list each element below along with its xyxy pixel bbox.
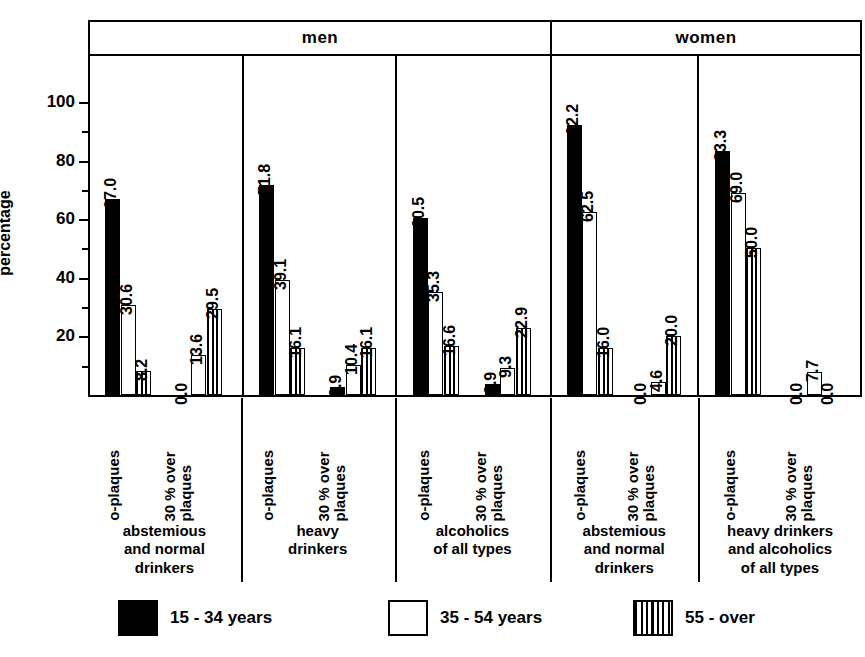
bar-value-label: 16.1 <box>288 327 304 358</box>
bar-value-label: 62.5 <box>580 191 596 222</box>
x-category-label-line: plaques <box>798 451 814 521</box>
bar-value-label: 60.5 <box>411 197 427 228</box>
panel-1: 71.839.116.12.910.416.1 <box>242 56 395 395</box>
legend-swatch-solid-black <box>118 600 158 636</box>
group-divider <box>395 398 397 582</box>
x-category-label: o-plaques <box>416 450 432 521</box>
group-caption-1: heavydrinkers <box>241 520 395 582</box>
bar-value-label: 83.3 <box>713 130 729 161</box>
bar-value-label: 16.6 <box>442 325 458 356</box>
bar-value-label: 22.9 <box>514 307 530 338</box>
y-tick-80 <box>79 161 88 163</box>
legend-label: 55 - over <box>685 608 755 628</box>
group-caption-text: abstemiousand normaldrinkers <box>583 522 666 577</box>
bar-value-label: 16.1 <box>359 327 375 358</box>
x-category-label: 30 % overplaques <box>472 451 504 521</box>
bar-value-label: 39.1 <box>273 259 289 290</box>
panel-2: 60.535.316.63.99.322.9 <box>395 56 550 395</box>
x-category-label-line: 30 % over <box>625 451 641 521</box>
x-category-label: 30 % overplaques <box>316 451 348 521</box>
x-category-label-line: 30 % over <box>316 451 332 521</box>
x-category-label-line: o-plaques <box>723 450 739 521</box>
group-caption-4: heavy drinkersand alcoholicsof all types <box>698 520 862 582</box>
x-category-label: o-plaques <box>106 450 122 521</box>
group-divider <box>241 398 243 582</box>
x-axis-labels: o-plaques30 % overplaqueso-plaques30 % o… <box>88 399 862 521</box>
y-tick-label-60: 60 <box>56 209 75 229</box>
group-caption-text: alcoholicsof all types <box>433 522 511 559</box>
x-category-label-line: 30 % over <box>472 451 488 521</box>
bar <box>567 125 582 395</box>
bar <box>582 212 597 395</box>
bar-value-label: 29.5 <box>205 287 221 318</box>
legend-label: 35 - 54 years <box>440 608 542 628</box>
bar-value-label: 92.2 <box>565 104 581 135</box>
header-cell-men: men <box>90 22 550 54</box>
bar-value-label: 69.0 <box>729 172 745 203</box>
x-category-label: o-plaques <box>572 450 588 521</box>
group-caption-line: drinkers <box>123 559 206 577</box>
panel-3: 92.262.516.00.04.620.0 <box>550 56 697 395</box>
x-category-label-line: plaques <box>332 451 348 521</box>
bar-value-label: 67.0 <box>103 178 119 209</box>
bar-value-label: 20.0 <box>664 315 680 346</box>
group-caption-line: drinkers <box>583 559 666 577</box>
group-caption-line: and alcoholics <box>727 540 833 558</box>
x-category-label: 30 % overplaques <box>783 451 815 521</box>
group-caption-line: and normal <box>583 540 666 558</box>
group-caption-line: alcoholics <box>433 522 511 540</box>
x-category-label-line: o-plaques <box>261 450 277 521</box>
panel-4: 83.369.050.00.07.70.0 <box>697 56 860 395</box>
bar-value-label: 50.0 <box>744 227 760 258</box>
sex-header-band: menwomen <box>88 20 862 56</box>
bar-value-label: 13.6 <box>189 334 205 365</box>
legend-label: 15 - 34 years <box>170 608 272 628</box>
y-tick-label-40: 40 <box>56 268 75 288</box>
header-cell-label: men <box>302 28 338 48</box>
plot-area: 67.030.68.20.013.629.571.839.116.12.910.… <box>88 56 862 397</box>
legend-swatch-open-white <box>388 600 428 636</box>
x-category-label-line: plaques <box>177 451 193 521</box>
group-caption-line: abstemious <box>123 522 206 540</box>
legend-item-1[interactable]: 35 - 54 years <box>388 600 542 636</box>
bar <box>413 218 428 395</box>
y-tick-100 <box>79 102 88 104</box>
bar-value-label: 2.9 <box>328 374 344 396</box>
bar-value-label: 16.0 <box>596 327 612 358</box>
group-caption-2: alcoholicsof all types <box>395 520 551 582</box>
x-category-label-line: o-plaques <box>416 450 432 521</box>
y-tick-label-100: 100 <box>47 92 75 112</box>
y-tick-20 <box>79 336 88 338</box>
group-caption-line: of all types <box>727 559 833 577</box>
bar-value-label: 9.3 <box>498 355 514 377</box>
header-cell-label: women <box>675 28 736 48</box>
x-category-label-line: plaques <box>640 451 656 521</box>
group-caption-text: heavy drinkersand alcoholicsof all types <box>727 522 833 577</box>
bar-value-label: 4.6 <box>649 369 665 391</box>
x-category-label: 30 % overplaques <box>625 451 657 521</box>
x-category-label-line: plaques <box>488 451 504 521</box>
bar-value-label: 35.3 <box>426 270 442 301</box>
x-category-label: 30 % overplaques <box>161 451 193 521</box>
header-cell-women: women <box>550 22 860 54</box>
bar <box>207 309 222 395</box>
x-category-label-line: 30 % over <box>783 451 799 521</box>
panel-0: 67.030.68.20.013.629.5 <box>90 56 242 395</box>
group-caption-line: abstemious <box>583 522 666 540</box>
group-divider <box>550 398 552 582</box>
group-caption-text: abstemiousand normaldrinkers <box>123 522 206 577</box>
x-category-label: o-plaques <box>723 450 739 521</box>
x-category-label-line: o-plaques <box>572 450 588 521</box>
bar <box>746 248 761 395</box>
group-caption-0: abstemiousand normaldrinkers <box>88 520 241 582</box>
bar-value-label: 71.8 <box>257 163 273 194</box>
group-caption-text: heavydrinkers <box>288 522 347 559</box>
chart-legend: 15 - 34 years35 - 54 years55 - over <box>88 593 862 643</box>
bar <box>731 193 746 395</box>
legend-item-2[interactable]: 55 - over <box>633 600 755 636</box>
group-caption-line: heavy <box>288 522 347 540</box>
y-axis: 20406080100 <box>0 56 88 397</box>
bar-value-label: 7.7 <box>805 360 821 382</box>
y-tick-label-80: 80 <box>56 151 75 171</box>
legend-item-0[interactable]: 15 - 34 years <box>118 600 272 636</box>
